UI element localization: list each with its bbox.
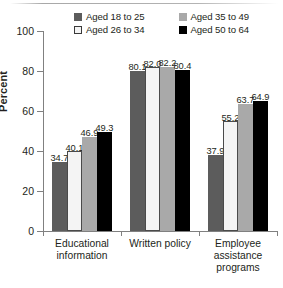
bar: 37.9 (208, 155, 223, 231)
category-label-line: assistance (199, 250, 277, 262)
bar-value-label: 55.2 (221, 113, 239, 123)
bar: 82.0 (145, 67, 160, 231)
bar-chart-figure: Aged 18 to 25 Aged 35 to 49 Aged 26 to 3… (0, 0, 283, 288)
bar: 82.2 (160, 67, 175, 231)
x-tick-1 (121, 231, 122, 236)
bar-group-3: 37.955.263.764.9 (208, 31, 268, 231)
category-label-line: Educational (43, 238, 121, 250)
bar: 63.7 (238, 104, 253, 231)
legend-label-aged-18-to-25: Aged 18 to 25 (86, 11, 144, 22)
bar: 34.7 (52, 162, 67, 231)
legend-label-aged-35-to-49: Aged 35 to 49 (191, 11, 249, 22)
category-label-line: information (43, 250, 121, 262)
category-label-1: Educationalinformation (43, 238, 121, 262)
category-label-line: Written policy (121, 238, 199, 250)
bar: 80.1 (130, 71, 145, 231)
plot-area: 34.740.146.949.380.182.082.280.437.955.2… (43, 31, 276, 231)
legend-swatch-aged-35-to-49 (179, 13, 187, 21)
bar-value-label: 49.3 (95, 123, 113, 133)
x-tick-0 (43, 231, 44, 236)
bar-value-label: 37.9 (206, 146, 224, 156)
bar-group-1: 34.740.146.949.3 (52, 31, 112, 231)
y-tick-label-60: 60 (3, 106, 34, 116)
y-tick-label-40: 40 (3, 146, 34, 156)
category-label-line: programs (199, 262, 277, 274)
legend-item-aged-35-to-49: Aged 35 to 49 (179, 11, 275, 22)
top-divider-rule (10, 3, 278, 4)
bar-group-2: 80.182.082.280.4 (130, 31, 190, 231)
figure-caption (8, 279, 278, 286)
y-tick-label-80: 80 (3, 66, 34, 76)
legend-swatch-aged-18-to-25 (74, 13, 82, 21)
bar: 46.9 (82, 137, 97, 231)
bar: 40.1 (67, 151, 82, 231)
bar: 49.3 (97, 132, 112, 231)
category-label-2: Written policy (121, 238, 199, 250)
bar-value-label: 64.9 (251, 92, 269, 102)
y-tick-label-20: 20 (3, 186, 34, 196)
bar-value-label: 40.1 (65, 143, 83, 153)
x-tick-3 (277, 231, 278, 236)
bar-value-label: 34.7 (50, 153, 68, 163)
bar: 80.4 (175, 70, 190, 231)
y-tick-label-0: 0 (3, 226, 34, 236)
y-tick-label-100: 100 (3, 26, 34, 36)
category-label-line: Employee (199, 238, 277, 250)
x-tick-2 (199, 231, 200, 236)
x-axis-line (43, 231, 277, 232)
legend-item-aged-18-to-25: Aged 18 to 25 (74, 11, 170, 22)
bar: 55.2 (223, 121, 238, 231)
category-label-3: Employeeassistanceprograms (199, 238, 277, 275)
bar-value-label: 80.4 (173, 61, 191, 71)
bar: 64.9 (253, 101, 268, 231)
